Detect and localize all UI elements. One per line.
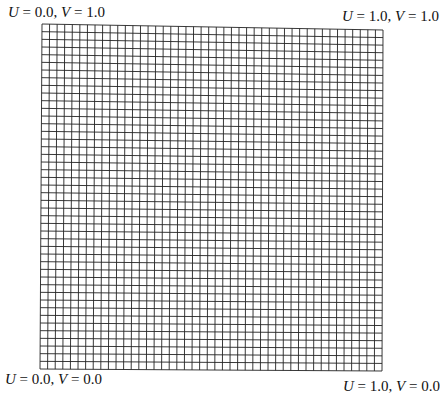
grid-line: [200, 27, 202, 370]
grid-line: [41, 147, 382, 152]
grid-line: [41, 131, 382, 136]
grid-line: [329, 29, 330, 371]
grid-line: [63, 24, 65, 369]
grid-line: [238, 27, 239, 370]
grid-line: [306, 29, 307, 371]
corner-label-bottom-right: U = 1.0, V = 0.0: [343, 378, 440, 395]
grid-line: [108, 25, 110, 369]
grid-line: [41, 116, 382, 121]
grid-line: [41, 231, 383, 235]
grid-line: [42, 78, 383, 83]
grid-line: [215, 27, 216, 370]
grid-line: [41, 239, 383, 243]
grid-line: [154, 26, 156, 370]
grid-line: [40, 331, 382, 333]
grid-line: [41, 139, 382, 144]
grid-line: [41, 246, 383, 249]
grid-line: [41, 262, 383, 265]
grid-line: [41, 170, 382, 174]
grid-line: [245, 28, 246, 371]
grid-line: [78, 25, 80, 370]
grid-line: [230, 27, 231, 370]
grid-line: [359, 30, 360, 371]
grid-line: [192, 27, 194, 370]
grid-line: [40, 346, 382, 348]
grid-line: [48, 24, 50, 369]
grid-line: [207, 27, 209, 370]
grid-line: [41, 200, 383, 204]
grid-line: [42, 47, 383, 53]
grid-line: [41, 177, 382, 181]
corner-label-bottom-left: U = 0.0, V = 0.0: [5, 371, 102, 388]
grid-line: [352, 29, 353, 370]
grid-line: [41, 208, 383, 212]
grid-line: [93, 25, 95, 369]
grid-line: [42, 55, 383, 61]
grid-line: [321, 29, 322, 371]
grid-line: [70, 25, 72, 370]
grid-line: [291, 28, 292, 370]
grid-line: [367, 30, 368, 371]
grid-line: [336, 29, 337, 371]
grid-line: [41, 154, 382, 158]
grid-line: [344, 29, 345, 370]
corner-label-top-right: U = 1.0, V = 1.0: [342, 8, 439, 25]
grid-line: [283, 28, 284, 370]
grid-line: [40, 292, 382, 295]
grid-line: [298, 29, 299, 371]
grid-line: [42, 24, 383, 30]
grid-line: [222, 27, 223, 370]
grid-line: [276, 28, 277, 370]
grid-line: [41, 216, 383, 220]
corner-label-top-left: U = 0.0, V = 1.0: [8, 4, 105, 21]
grid-line: [42, 70, 383, 75]
grid-line: [42, 62, 383, 68]
grid-line: [184, 27, 186, 370]
grid-line: [40, 285, 382, 288]
grid-line: [41, 185, 382, 189]
grid-line: [40, 300, 382, 303]
grid-line: [41, 269, 383, 272]
grid-line: [41, 277, 383, 280]
grid-line: [268, 28, 269, 370]
grid-line: [40, 323, 382, 326]
grid-line: [131, 26, 133, 370]
grid-line: [124, 25, 126, 369]
grid-line: [169, 26, 171, 369]
grid-line: [40, 338, 382, 340]
grid-line: [177, 26, 179, 369]
grid-line: [42, 108, 383, 113]
grid-line: [162, 26, 164, 370]
grid-line: [101, 25, 103, 369]
grid-line: [40, 315, 382, 318]
grid-line: [41, 223, 383, 227]
grid-line: [146, 26, 148, 370]
grid-line: [40, 354, 382, 356]
grid-line: [41, 162, 382, 166]
grid-line: [314, 29, 315, 371]
grid-line: [86, 25, 88, 369]
grid-line: [41, 124, 382, 129]
grid-line: [42, 32, 383, 38]
grid-line: [41, 193, 382, 197]
grid-line: [382, 30, 383, 371]
grid-line: [42, 85, 383, 90]
grid-line: [42, 39, 383, 45]
grid-line: [253, 28, 254, 371]
grid-line: [40, 361, 382, 363]
grid-line: [42, 101, 383, 106]
grid-line: [139, 26, 141, 370]
grid-line: [374, 30, 375, 371]
grid-line: [41, 254, 383, 257]
grid-line: [42, 93, 383, 98]
grid-line: [40, 308, 382, 311]
grid-line: [55, 24, 57, 369]
grid-line: [116, 25, 118, 369]
grid-line: [260, 28, 261, 370]
grid-line: [40, 24, 42, 369]
